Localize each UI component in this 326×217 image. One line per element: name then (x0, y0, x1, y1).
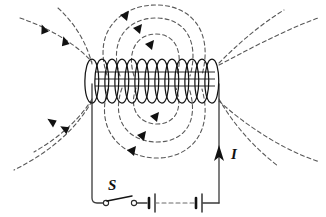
field-line-upper-right-inner (219, 10, 284, 63)
inner-loop-arrowheads-above (120, 11, 154, 50)
field-line-upper-left-outer (20, 18, 92, 62)
field-arrow-below-1 (150, 112, 159, 122)
field-arrow-below-3 (127, 146, 136, 156)
battery-pack (149, 194, 202, 212)
switch-label: S (108, 178, 116, 193)
field-line-lower-right-inner (219, 99, 278, 166)
figure-root: S I (0, 0, 326, 217)
switch-terminal-right (131, 200, 136, 205)
field-arrow-above-1 (145, 40, 154, 50)
current-label: I (231, 147, 237, 162)
field-loop-below-3 (104, 89, 205, 158)
field-line-upper-right-outer (219, 18, 318, 65)
field-arrow-ul-1 (61, 36, 71, 48)
inner-field-loops-below (104, 88, 205, 158)
outer-field-arrowheads (40, 24, 71, 135)
switch-lever (107, 196, 132, 201)
field-loop-above-3 (103, 5, 205, 75)
field-arrow-ll-1 (47, 116, 58, 128)
field-line-lower-left-outer (14, 101, 92, 170)
field-arrow-below-2 (137, 131, 146, 141)
field-line-lower-left-inner (34, 99, 92, 152)
outer-field-lines (14, 8, 320, 170)
field-arrow-above-2 (133, 24, 142, 34)
field-line-upper-left-inner (58, 8, 92, 64)
switch-S[interactable] (103, 196, 136, 206)
inner-field-loops-above (103, 5, 205, 76)
coil-turn (205, 59, 219, 103)
field-arrow-above-3 (120, 11, 129, 21)
solenoid-field-diagram (0, 0, 326, 217)
